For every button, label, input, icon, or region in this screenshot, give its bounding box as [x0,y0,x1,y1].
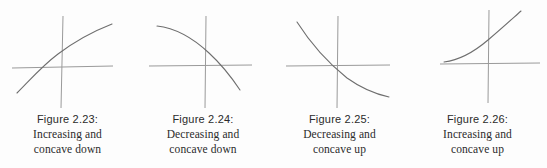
figure-2-25-caption-line1: Decreasing and [271,127,408,142]
curve-increasing-concave-up [444,11,521,62]
figure-2-24-caption-line2: concave down [135,142,271,157]
figure-2-24-caption-title: Figure 2.24: [135,112,271,127]
figure-2-25-caption-line2: concave up [271,142,408,157]
figure-2-23-caption-title: Figure 2.23: [0,112,135,127]
figure-2-25: Figure 2.25: Decreasing and concave up [271,0,408,168]
y-axis [61,16,63,108]
figure-2-24: Figure 2.24: Decreasing and concave down [135,0,271,168]
figure-panel: Figure 2.23: Increasing and concave down… [0,0,547,168]
y-axis [337,16,338,108]
y-axis [488,10,489,103]
curve-decreasing-concave-up [297,22,389,97]
curve-decreasing-concave-down [157,26,240,90]
figure-2-24-plot [135,0,271,112]
y-axis [205,16,206,108]
figure-2-25-svg [271,0,408,112]
figure-2-23-svg [0,0,135,112]
figure-2-26-caption: Figure 2.26: Increasing and concave up [408,112,547,157]
figure-2-24-caption-line1: Decreasing and [135,127,271,142]
x-axis [149,65,252,66]
figure-2-26-caption-line1: Increasing and [408,127,547,142]
figure-2-24-svg [135,0,271,112]
figure-2-23-caption: Figure 2.23: Increasing and concave down [0,112,135,157]
x-axis [440,63,540,64]
figure-2-26-caption-line2: concave up [408,142,547,157]
figure-2-26-caption-title: Figure 2.26: [408,112,547,127]
figure-2-26-svg [408,0,547,112]
x-axis [286,65,390,66]
figure-2-23-plot [0,0,135,112]
figure-2-23-caption-line1: Increasing and [0,127,135,142]
figure-2-25-plot [271,0,408,112]
figure-2-26-plot [408,0,547,112]
x-axis [12,66,113,68]
figure-2-26: Figure 2.26: Increasing and concave up [408,0,547,168]
figure-2-25-caption: Figure 2.25: Decreasing and concave up [271,112,408,157]
curve-increasing-concave-down [17,24,112,93]
figure-2-23: Figure 2.23: Increasing and concave down [0,0,135,168]
figure-2-23-caption-line2: concave down [0,142,135,157]
figure-2-24-caption: Figure 2.24: Decreasing and concave down [135,112,271,157]
figure-2-25-caption-title: Figure 2.25: [271,112,408,127]
